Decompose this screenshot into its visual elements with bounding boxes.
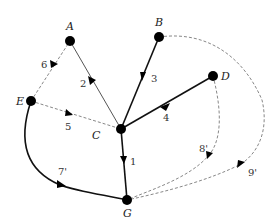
arrowhead-icon: [237, 160, 245, 168]
edge-label-6: 6: [41, 59, 47, 70]
edge-label-5: 5: [65, 121, 71, 132]
node-label-d: D: [220, 70, 230, 83]
directed-graph-diagram: A B D E C G 2 3 4 1 6 5 7' 8' 9': [0, 0, 277, 223]
node-label-a: A: [65, 20, 74, 33]
arrowhead-icon: [65, 109, 73, 116]
node-label-b: B: [154, 16, 163, 29]
node-label-c: C: [92, 129, 101, 142]
edge-label-2: 2: [80, 78, 86, 89]
node-label-e: E: [15, 95, 24, 108]
arrowhead-icon: [120, 156, 127, 164]
node-g: [122, 195, 132, 205]
node-c: [116, 124, 126, 134]
node-b: [154, 32, 164, 42]
edge-label-4: 4: [163, 112, 169, 123]
edge-e-to-g: [25, 101, 127, 200]
edge-label-8p: 8': [199, 143, 208, 154]
edge-label-9p: 9': [248, 167, 257, 178]
edge-b-to-g: [127, 36, 264, 200]
edge-label-7p: 7': [58, 166, 67, 177]
node-d: [208, 71, 218, 81]
node-a: [65, 36, 75, 46]
edge-a-to-c: [70, 41, 121, 129]
edge-d-to-g: [127, 76, 219, 200]
edge-e-to-a: [31, 41, 70, 101]
node-e: [26, 96, 36, 106]
edge-label-3: 3: [151, 73, 157, 84]
edge-label-1: 1: [130, 156, 136, 167]
edge-c-to-g: [120, 129, 127, 200]
node-label-g: G: [123, 207, 132, 220]
